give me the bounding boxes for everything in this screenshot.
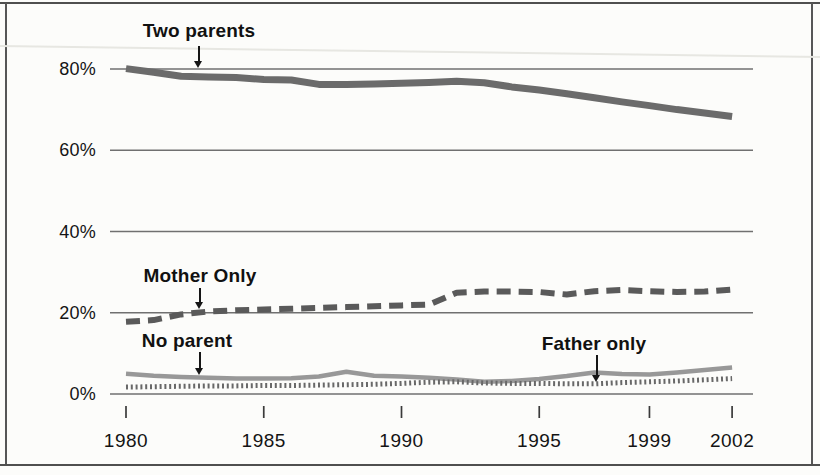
y-tick-label: 20% — [34, 304, 96, 322]
down-arrow-icon — [194, 352, 205, 375]
scan-artifact-line — [0, 46, 820, 57]
down-arrow-icon — [591, 355, 602, 382]
y-tick-label: 40% — [34, 223, 96, 241]
x-tick-label: 1995 — [517, 430, 561, 452]
annotation-father-only: Father only — [542, 333, 647, 355]
y-tick-label: 60% — [34, 141, 96, 159]
x-tick-label: 2002 — [710, 430, 754, 452]
annotation-two-parents: Two parents — [143, 20, 256, 42]
y-tick-label: 0% — [34, 385, 96, 403]
y-tick-label: 80% — [34, 60, 96, 78]
x-tick-marks — [126, 406, 732, 418]
series-two-parents — [126, 69, 732, 117]
down-arrow-icon — [193, 46, 204, 68]
x-tick-label: 1985 — [242, 430, 286, 452]
bottom-rule — [0, 464, 820, 466]
x-tick-label: 1980 — [104, 430, 148, 452]
series-mother-only — [126, 290, 732, 322]
line-chart — [0, 0, 820, 475]
annotation-mother-only: Mother Only — [143, 265, 256, 287]
x-tick-label: 1999 — [627, 430, 671, 452]
x-tick-label: 1990 — [379, 430, 423, 452]
annotation-no-parent: No parent — [142, 330, 232, 352]
down-arrow-icon — [194, 288, 205, 309]
figure-page: 0%20%40%60%80% 198019851990199519992002 … — [0, 0, 820, 475]
